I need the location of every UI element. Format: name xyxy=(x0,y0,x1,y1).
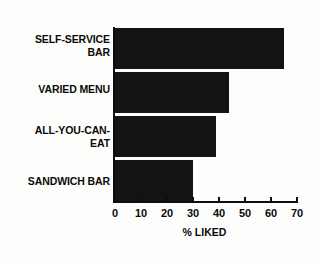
x-axis-tick-60 xyxy=(270,197,272,203)
x-axis-tick-10 xyxy=(140,197,142,203)
bar-chart: SELF-SERVICE BAR VARIED MENU ALL-YOU-CAN… xyxy=(0,0,321,262)
category-label-sandwich-bar: SANDWICH BAR xyxy=(0,175,114,188)
category-label-self-service-bar: SELF-SERVICE BAR xyxy=(0,33,114,58)
x-axis-tick-70 xyxy=(296,197,298,203)
x-axis-tick-30 xyxy=(192,197,194,203)
bar-varied-menu xyxy=(115,72,229,113)
bar-sandwich-bar xyxy=(115,160,193,201)
x-axis-tick-40 xyxy=(218,197,220,203)
x-axis-tick-0 xyxy=(114,197,116,203)
x-axis-tick-label-70: 70 xyxy=(282,207,312,219)
x-axis-title: % LIKED xyxy=(113,226,296,238)
bar-self-service-bar xyxy=(115,28,284,69)
x-axis-tick-50 xyxy=(244,197,246,203)
bar-all-you-can-eat xyxy=(115,116,216,157)
category-label-varied-menu: VARIED MENU xyxy=(0,83,114,96)
x-axis-tick-20 xyxy=(166,197,168,203)
category-label-all-you-can-eat: ALL-YOU-CAN- EAT xyxy=(0,124,114,149)
